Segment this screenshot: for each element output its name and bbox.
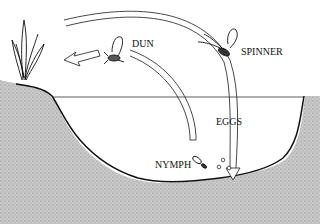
life-cycle-diagram	[0, 0, 320, 224]
dun-mayfly-icon	[104, 37, 124, 64]
arrow-dun-to-bank	[64, 50, 100, 66]
eggs-icon	[217, 158, 231, 170]
label-dun: DUN	[132, 39, 154, 49]
nymph-icon	[191, 155, 207, 169]
label-eggs: EGGS	[216, 117, 242, 127]
pond-bank	[0, 80, 320, 224]
label-nymph: NYMPH	[155, 160, 191, 170]
arc-arrow-spinner-to-eggs	[64, 11, 238, 168]
spinner-mayfly-icon	[198, 29, 237, 58]
arc-arrow-dun-to-nymph	[130, 50, 196, 140]
label-spinner: SPINNER	[241, 47, 283, 57]
reed-plant-icon	[12, 20, 44, 80]
